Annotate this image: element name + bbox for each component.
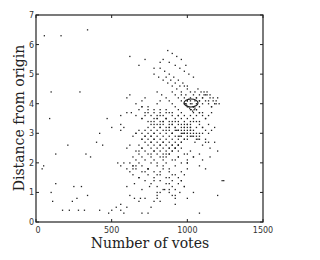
data-point (199, 124, 200, 125)
data-point (153, 68, 154, 69)
data-point (157, 153, 158, 154)
data-point (205, 94, 206, 95)
data-point (138, 150, 139, 151)
data-point (175, 121, 176, 122)
data-point (172, 133, 173, 134)
data-point (172, 85, 173, 86)
data-point (172, 174, 173, 175)
data-point (167, 82, 168, 83)
x-tick-label: 0 (35, 226, 40, 235)
data-point (150, 115, 151, 116)
data-point (187, 139, 188, 140)
x-tick-label: 1500 (253, 226, 273, 235)
data-point (184, 115, 185, 116)
data-point (144, 59, 145, 60)
data-point (192, 111, 193, 112)
data-point (187, 124, 188, 125)
data-point (87, 195, 88, 196)
data-point (150, 130, 151, 131)
data-point (126, 207, 127, 208)
data-point (175, 148, 176, 149)
data-point (157, 124, 158, 125)
data-point (196, 97, 197, 98)
data-point (147, 106, 148, 107)
data-point (193, 156, 194, 157)
data-point (175, 130, 176, 131)
data-point (178, 121, 179, 122)
data-point (157, 142, 158, 143)
data-point (181, 180, 182, 181)
data-point (132, 156, 133, 157)
data-point (172, 145, 173, 146)
data-point (178, 177, 179, 178)
data-point (134, 183, 135, 184)
data-point (181, 148, 182, 149)
data-point (153, 127, 154, 128)
data-point (191, 109, 192, 110)
data-point (190, 127, 191, 128)
data-point (150, 162, 151, 163)
data-point (90, 156, 91, 157)
data-point (166, 183, 167, 184)
data-point (172, 159, 173, 160)
data-point (209, 94, 210, 95)
data-point (157, 165, 158, 166)
data-point (150, 156, 151, 157)
data-point (193, 133, 194, 134)
data-point (160, 145, 161, 146)
data-point (181, 118, 182, 119)
data-point (211, 130, 212, 131)
data-point (178, 80, 179, 81)
data-point (163, 189, 164, 190)
data-point (120, 115, 121, 116)
data-point (138, 145, 139, 146)
data-point (163, 159, 164, 160)
data-point (157, 162, 158, 163)
data-point (217, 195, 218, 196)
data-point (147, 127, 148, 128)
data-point (181, 142, 182, 143)
data-point (153, 133, 154, 134)
data-point (141, 156, 142, 157)
data-point (147, 121, 148, 122)
data-point (193, 118, 194, 119)
data-point (169, 74, 170, 75)
data-point (202, 159, 203, 160)
data-point (153, 145, 154, 146)
data-point (157, 115, 158, 116)
data-point (169, 177, 170, 178)
data-point (160, 62, 161, 63)
data-point (190, 124, 191, 125)
data-point (160, 192, 161, 193)
data-point (157, 192, 158, 193)
data-point (126, 186, 127, 187)
data-point (166, 133, 167, 134)
data-point (150, 153, 151, 154)
data-point (175, 174, 176, 175)
data-point (169, 171, 170, 172)
data-point (150, 142, 151, 143)
data-point (166, 127, 167, 128)
data-point (172, 53, 173, 54)
data-point (166, 153, 167, 154)
data-point (144, 130, 145, 131)
data-point (211, 106, 212, 107)
data-point (190, 133, 191, 134)
data-point (163, 121, 164, 122)
data-point (60, 35, 61, 36)
data-point (172, 124, 173, 125)
data-point (144, 142, 145, 143)
data-point (169, 112, 170, 113)
data-point (120, 210, 121, 211)
data-point (99, 210, 100, 211)
data-point (111, 210, 112, 211)
data-point (184, 124, 185, 125)
data-point (194, 109, 195, 110)
data-point (190, 150, 191, 151)
data-point (205, 168, 206, 169)
data-point (181, 59, 182, 60)
data-point (205, 118, 206, 119)
data-point (169, 192, 170, 193)
data-point (217, 97, 218, 98)
data-point (199, 165, 200, 166)
